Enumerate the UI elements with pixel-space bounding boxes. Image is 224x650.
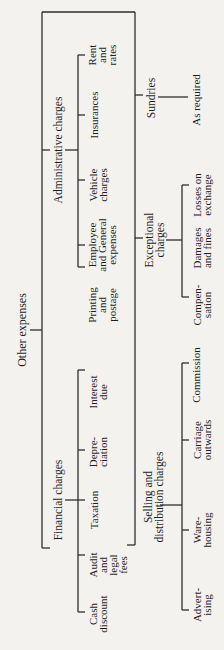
node-commission: Commission: [191, 347, 201, 403]
node-printing-and-postage: Printing and postage: [87, 287, 117, 322]
node-taxation: Taxation: [89, 491, 99, 529]
node-advertising: Advert- ising: [192, 588, 212, 622]
expense-tree-diagram: Other expenses Administrative charges Fi…: [0, 0, 224, 650]
node-other-expenses: Other expenses: [16, 293, 28, 367]
node-as-required: As required: [191, 74, 201, 126]
node-rent-and-rates: Rent and rates: [87, 45, 117, 66]
node-cash-discount: Cash discount: [88, 595, 108, 632]
node-vehicle-charges: Vehicle charges: [88, 168, 108, 201]
node-interest-due: Interest due: [88, 376, 108, 409]
node-selling-distribution-charges: Selling and distribution charges: [143, 452, 165, 543]
node-depreciation: Depre- ciation: [88, 437, 108, 468]
node-employee-general-expenses: Employee and General expenses: [87, 218, 117, 271]
node-financial-charges: Financial charges: [53, 460, 64, 541]
node-insurances: Insurances: [89, 91, 99, 138]
node-warehousing: Ware- housing: [192, 513, 212, 548]
node-damages-and-fines: Damages and fines: [192, 228, 212, 269]
node-sundries: Sundries: [146, 78, 157, 118]
node-losses-on-exchange: Losses on exchange: [192, 173, 212, 217]
node-administrative-charges: Administrative charges: [53, 97, 64, 204]
node-compensation: Compen- sation: [192, 285, 212, 326]
node-carriage-outwards: Carriage outwards: [192, 420, 212, 460]
node-exceptional-charges: Exceptional charges: [144, 213, 166, 268]
node-audit-and-legal-fees: Audit and legal fees: [88, 552, 128, 577]
